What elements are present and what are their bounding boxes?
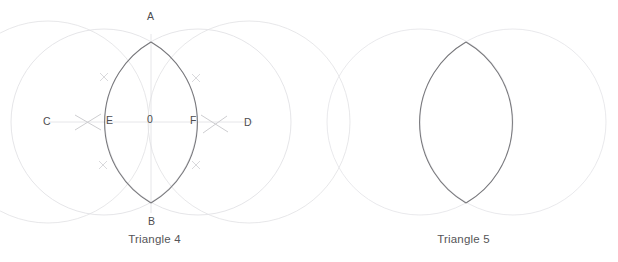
cross-right-axis	[201, 115, 228, 133]
vertex-label-o: 0	[147, 113, 153, 125]
cross-lower-left	[99, 161, 107, 169]
lens-outline-left-arc	[420, 42, 466, 203]
cross-upper-right	[192, 74, 200, 82]
lens-outline-right-arc	[466, 42, 512, 203]
caption-triangle-5: Triangle 5	[309, 233, 618, 245]
vertex-label-b: B	[148, 215, 155, 227]
vertex-label-f: F	[190, 114, 196, 126]
figure-canvas: A B C D E F 0 Triangle 4 Triangle 5	[0, 0, 618, 262]
figure-triangle-5	[327, 29, 606, 215]
vertex-label-d: D	[244, 116, 252, 128]
cross-lower-right	[192, 161, 200, 169]
figure-triangle-4	[0, 21, 350, 223]
caption-triangle-4: Triangle 4	[0, 233, 309, 245]
cross-upper-left	[100, 73, 108, 81]
vertex-label-c: C	[43, 115, 51, 127]
vertex-label-e: E	[106, 114, 113, 126]
vertex-label-a: A	[147, 10, 154, 22]
geometry-drawing	[0, 0, 618, 262]
